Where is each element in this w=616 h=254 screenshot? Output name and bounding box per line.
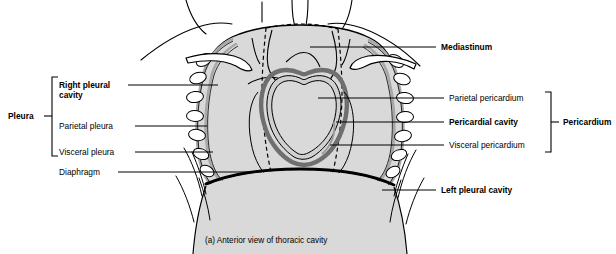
label-visceral-pericardium: Visceral pericardium (449, 140, 525, 150)
label-parietal-pleura: Parietal pleura (59, 121, 113, 131)
neck-left-contour (186, 0, 206, 34)
figure-canvas: Pleura Pericardium Right pleural cavity … (0, 0, 616, 254)
striation-left-c (406, 178, 424, 224)
label-pericardial-cavity: Pericardial cavity (449, 117, 518, 127)
pericardium-bracket (545, 92, 551, 152)
label-right-pleural-cavity-line2: cavity (59, 90, 83, 100)
rib-right-4 (186, 110, 203, 122)
label-left-pleural-cavity: Left pleural cavity (441, 185, 512, 195)
bracket-label-pleura: Pleura (8, 111, 34, 121)
pleura-bracket-group (44, 77, 58, 156)
figure-caption: (a) Anterior view of thoracic cavity (205, 236, 327, 245)
label-diaphragm: Diaphragm (59, 167, 100, 177)
label-right-pleural-cavity-line1: Right pleural (59, 80, 110, 90)
pleura-bracket (52, 77, 58, 156)
bracket-label-pericardium: Pericardium (563, 117, 611, 127)
striation-right-c (176, 176, 194, 222)
label-mediastinum: Mediastinum (441, 42, 492, 52)
label-visceral-pleura: Visceral pleura (59, 147, 114, 157)
label-parietal-pericardium: Parietal pericardium (449, 93, 523, 103)
label-right-pleural-cavity: Right pleural cavity (59, 80, 110, 100)
pericardium-bracket-group (545, 92, 559, 152)
rib-left-4 (396, 111, 413, 123)
